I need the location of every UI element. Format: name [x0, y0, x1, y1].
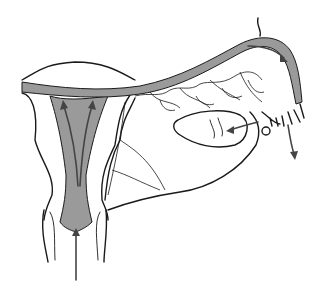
mesosalpinx	[105, 98, 135, 200]
uterine-cavity	[50, 96, 108, 232]
cyst	[262, 127, 270, 135]
arrowhead-exit	[290, 151, 298, 160]
broad-ligament	[108, 112, 259, 210]
fimbriae	[262, 104, 304, 126]
ovary-arrow	[230, 122, 258, 130]
vagina-left	[43, 210, 48, 262]
exit-arrow	[288, 125, 294, 154]
vagina-inner-left	[50, 212, 55, 260]
ovarian-ligament	[210, 118, 223, 138]
uterus-wall-left	[22, 93, 52, 220]
ligament-tip	[258, 18, 261, 36]
anatomy-illustration	[0, 0, 323, 292]
ovary	[174, 111, 247, 147]
arrowhead-ovary	[226, 126, 234, 134]
anatomy-svg	[0, 0, 323, 292]
vagina-inner-right	[96, 212, 100, 260]
uterus-fundus	[22, 62, 135, 80]
vagina-right	[104, 210, 107, 262]
